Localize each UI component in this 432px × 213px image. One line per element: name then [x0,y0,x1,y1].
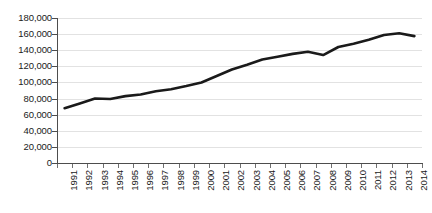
x-tick-mark [316,164,317,168]
x-tick-label: 2001 [221,170,231,191]
x-tick-mark [285,164,286,168]
y-tick-mark [52,18,57,19]
x-tick-mark [422,164,423,168]
x-tick-mark [57,164,58,168]
x-tick-label: 2014 [419,170,429,191]
y-tick-mark [52,147,57,148]
x-tick-label: 1993 [100,170,110,191]
x-tick-label: 2003 [252,170,262,191]
x-tick-label: 2010 [358,170,368,191]
x-tick-label: 2002 [236,170,246,191]
x-tick-label: 1994 [115,170,125,191]
x-tick-mark [255,164,256,168]
x-tick-mark [194,164,195,168]
x-tick-label: 1999 [191,170,201,191]
x-tick-mark [300,164,301,168]
x-tick-mark [346,164,347,168]
x-tick-mark [209,164,210,168]
x-tick-mark [270,164,271,168]
x-tick-mark [118,164,119,168]
x-tick-label: 2013 [404,170,414,191]
x-tick-mark [407,164,408,168]
y-tick-mark [52,34,57,35]
x-tick-mark [361,164,362,168]
x-tick-mark [133,164,134,168]
x-tick-mark [331,164,332,168]
x-tick-mark [87,164,88,168]
line-chart: 180,000160,000140,000120,000100,00080,00… [0,0,432,213]
x-tick-label: 2007 [312,170,322,191]
x-tick-label: 2008 [328,170,338,191]
x-tick-label: 2011 [373,170,383,190]
x-tick-label: 1995 [130,170,140,191]
x-tick-mark [392,164,393,168]
y-tick-mark [52,66,57,67]
x-tick-mark [376,164,377,168]
x-tick-label: 2005 [282,170,292,191]
x-tick-mark [163,164,164,168]
x-tick-label: 1992 [84,170,94,191]
x-tick-mark [148,164,149,168]
x-tick-mark [179,164,180,168]
x-tick-label: 2004 [267,170,277,191]
x-axis: 1991199219931994199519961997199819992000… [0,0,432,213]
x-tick-label: 1997 [160,170,170,191]
y-tick-mark [52,131,57,132]
y-tick-mark [52,50,57,51]
x-tick-label: 2000 [206,170,216,191]
x-tick-label: 1996 [145,170,155,191]
y-tick-mark [52,99,57,100]
x-tick-mark [103,164,104,168]
x-tick-label: 1991 [69,170,79,191]
y-tick-mark [52,115,57,116]
x-tick-mark [72,164,73,168]
x-tick-mark [224,164,225,168]
x-tick-mark [240,164,241,168]
x-tick-label: 2009 [343,170,353,191]
y-tick-mark [52,82,57,83]
x-tick-label: 2006 [297,170,307,191]
x-tick-label: 2012 [388,170,398,191]
x-tick-label: 1998 [176,170,186,191]
